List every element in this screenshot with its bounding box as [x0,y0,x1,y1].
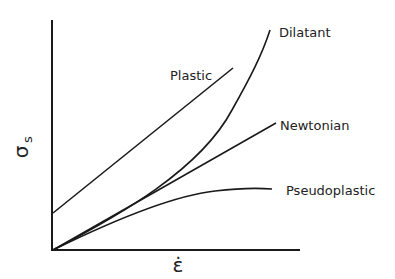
x-axis-label: ε̇ [173,253,184,277]
svg-text:s: s [20,136,35,143]
plastic-curve [53,68,233,213]
pseudoplastic-curve [53,188,272,250]
svg-text:σ: σ [9,145,33,158]
dilatant-curve [53,30,270,250]
dilatant-label: Dilatant [279,25,331,40]
plastic-label: Plastic [170,68,212,83]
y-axis-label: σ s [9,136,35,158]
newtonian-label: Newtonian [280,118,349,133]
rheology-chart: Plastic Dilatant Newtonian Pseudoplastic… [0,0,395,279]
pseudoplastic-label: Pseudoplastic [286,183,375,198]
